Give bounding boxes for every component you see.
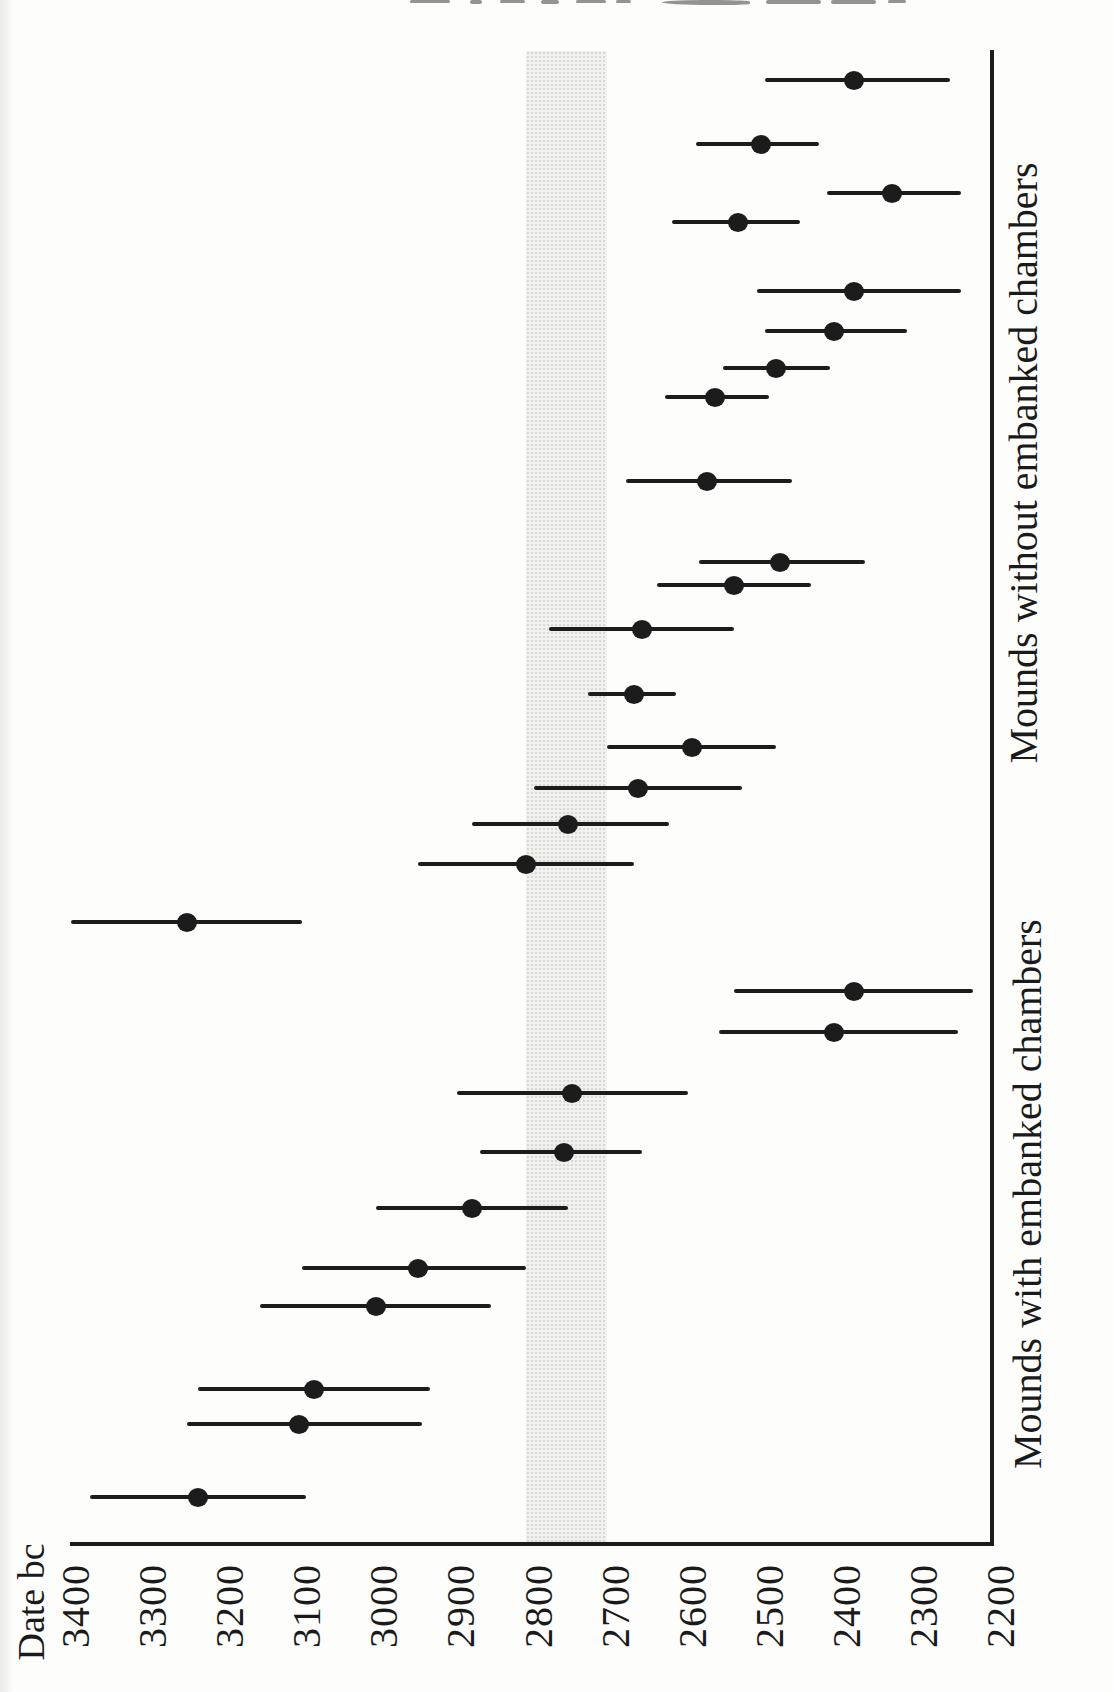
tick-label-2200: 2200 bbox=[977, 1564, 1024, 1648]
date-point-dot bbox=[766, 359, 786, 378]
date-point-dot bbox=[882, 184, 902, 203]
date-point-dot bbox=[844, 71, 864, 90]
date-point-dot bbox=[188, 1488, 208, 1507]
date-point-dot bbox=[408, 1259, 428, 1278]
tick-label-2900: 2900 bbox=[437, 1564, 484, 1648]
scan-mark bbox=[576, 0, 606, 3]
date-point-dot bbox=[728, 213, 748, 232]
date-point-dot bbox=[628, 779, 648, 798]
tick-label-3000: 3000 bbox=[360, 1564, 407, 1648]
tick-label-2700: 2700 bbox=[591, 1564, 638, 1648]
date-point-dot bbox=[697, 472, 717, 491]
date-point-dot bbox=[770, 553, 790, 572]
date-point-dot bbox=[554, 1143, 574, 1162]
tick-label-2400: 2400 bbox=[822, 1564, 869, 1648]
date-point-dot bbox=[724, 576, 744, 595]
date-point-dot bbox=[632, 620, 652, 639]
tick-label-3300: 3300 bbox=[129, 1564, 176, 1648]
date-point-dot bbox=[705, 388, 725, 407]
scan-mark bbox=[888, 0, 906, 3]
axis-baseline bbox=[70, 1542, 994, 1546]
date-point-dot bbox=[462, 1199, 482, 1218]
tick-label-2600: 2600 bbox=[668, 1564, 715, 1648]
date-point-dot bbox=[558, 815, 578, 834]
date-point-dot bbox=[824, 322, 844, 341]
date-point-dot bbox=[289, 1415, 309, 1434]
group-label-without-embanked-chambers: Mounds without embanked chambers bbox=[1000, 163, 1047, 764]
date-point-dot bbox=[516, 855, 536, 874]
date-point-dot bbox=[366, 1297, 386, 1316]
axis-spine bbox=[990, 50, 994, 1546]
date-point-dot bbox=[624, 685, 644, 704]
date-point-dot bbox=[304, 1380, 324, 1399]
scan-mark bbox=[470, 0, 482, 4]
group-label-with-embanked-chambers: Mounds with embanked chambers bbox=[1004, 919, 1051, 1469]
date-point-dot bbox=[824, 1023, 844, 1042]
date-point-dot bbox=[562, 1084, 582, 1103]
scan-mark bbox=[500, 0, 525, 3]
scan-mark bbox=[831, 0, 876, 4]
scan-mark bbox=[541, 0, 559, 4]
tick-label-2800: 2800 bbox=[514, 1564, 561, 1648]
scan-mark bbox=[410, 0, 450, 3]
tick-label-3400: 3400 bbox=[52, 1564, 99, 1648]
scan-mark bbox=[662, 0, 750, 5]
tick-label-2300: 2300 bbox=[899, 1564, 946, 1648]
date-point-dot bbox=[177, 913, 197, 932]
date-point-dot bbox=[682, 738, 702, 757]
date-point-dot bbox=[844, 982, 864, 1001]
radiocarbon-date-figure: 3400330032003100300029002800270026002500… bbox=[0, 0, 1113, 1692]
scan-mark bbox=[766, 0, 821, 4]
shaded-band-2800-2700 bbox=[526, 51, 607, 1542]
tick-label-3100: 3100 bbox=[283, 1564, 330, 1648]
date-point-dot bbox=[844, 282, 864, 301]
tick-label-3200: 3200 bbox=[206, 1564, 253, 1648]
scan-mark bbox=[616, 0, 631, 3]
page-edge-shading bbox=[0, 0, 14, 1692]
tick-label-2500: 2500 bbox=[745, 1564, 792, 1648]
axis-title: Date bc bbox=[9, 1543, 53, 1660]
date-point-dot bbox=[751, 135, 771, 154]
